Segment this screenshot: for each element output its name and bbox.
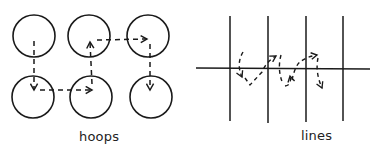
hoops-panel <box>12 15 172 118</box>
lines-panel <box>196 16 370 123</box>
lines-dashed-path <box>239 52 322 88</box>
lines-label: lines <box>301 128 332 143</box>
hoop-circle <box>70 76 112 118</box>
hoop-circle <box>127 15 169 57</box>
hoop-circle <box>68 15 110 57</box>
hoops-label: hoops <box>79 129 119 144</box>
hoop-circle <box>12 76 54 118</box>
hoop-circle <box>130 76 172 118</box>
horizontal-line <box>196 68 370 69</box>
